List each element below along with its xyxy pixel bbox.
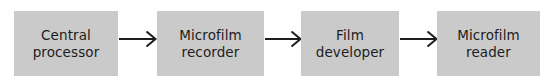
node-label-line2: reader bbox=[466, 44, 511, 61]
node-label-line1: Microfilm bbox=[179, 27, 242, 44]
node-label-line2: developer bbox=[316, 44, 385, 61]
node-central-processor: Centralprocessor bbox=[14, 11, 118, 76]
arrow-mr-to-fd bbox=[265, 29, 301, 49]
node-film-developer: Filmdeveloper bbox=[301, 11, 399, 76]
node-microfilm-recorder: Microfilmrecorder bbox=[157, 11, 264, 76]
flowchart-diagram: CentralprocessorMicrofilmrecorderFilmdev… bbox=[0, 0, 552, 76]
arrow-fd-to-mrd bbox=[400, 29, 437, 49]
node-label-line1: Microfilm bbox=[457, 27, 520, 44]
node-label-line1: Central bbox=[41, 27, 91, 44]
node-label-line1: Film bbox=[336, 27, 364, 44]
arrow-cp-to-mr bbox=[119, 29, 156, 49]
node-label-line2: recorder bbox=[182, 44, 240, 61]
node-label-line2: processor bbox=[33, 44, 100, 61]
node-microfilm-reader: Microfilmreader bbox=[437, 11, 540, 76]
